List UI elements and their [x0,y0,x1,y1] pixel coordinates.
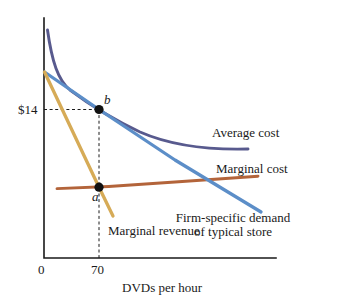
firm-demand-label-line1: Firm-specific demand [176,210,291,225]
point-b-marker [94,105,103,114]
point-b-label: b [104,92,111,107]
economics-figure: b a $14 0 70 DVDs per hour Average cost … [0,0,364,305]
marginal-cost-label: Marginal cost [216,161,288,176]
x-tick-label-0: 0 [38,262,45,277]
monopolistic-competition-chart: b a $14 0 70 DVDs per hour Average cost … [0,0,364,305]
y-tick-label-14: $14 [18,102,38,117]
point-a-label: a [92,189,99,204]
x-axis-title: DVDs per hour [122,280,203,295]
marginal-cost-curve [57,176,258,188]
x-tick-label-70: 70 [91,262,104,277]
marginal-revenue-label: Marginal revenue [108,223,200,238]
average-cost-label: Average cost [212,125,280,140]
firm-demand-label-line2: of typical store [194,224,272,239]
